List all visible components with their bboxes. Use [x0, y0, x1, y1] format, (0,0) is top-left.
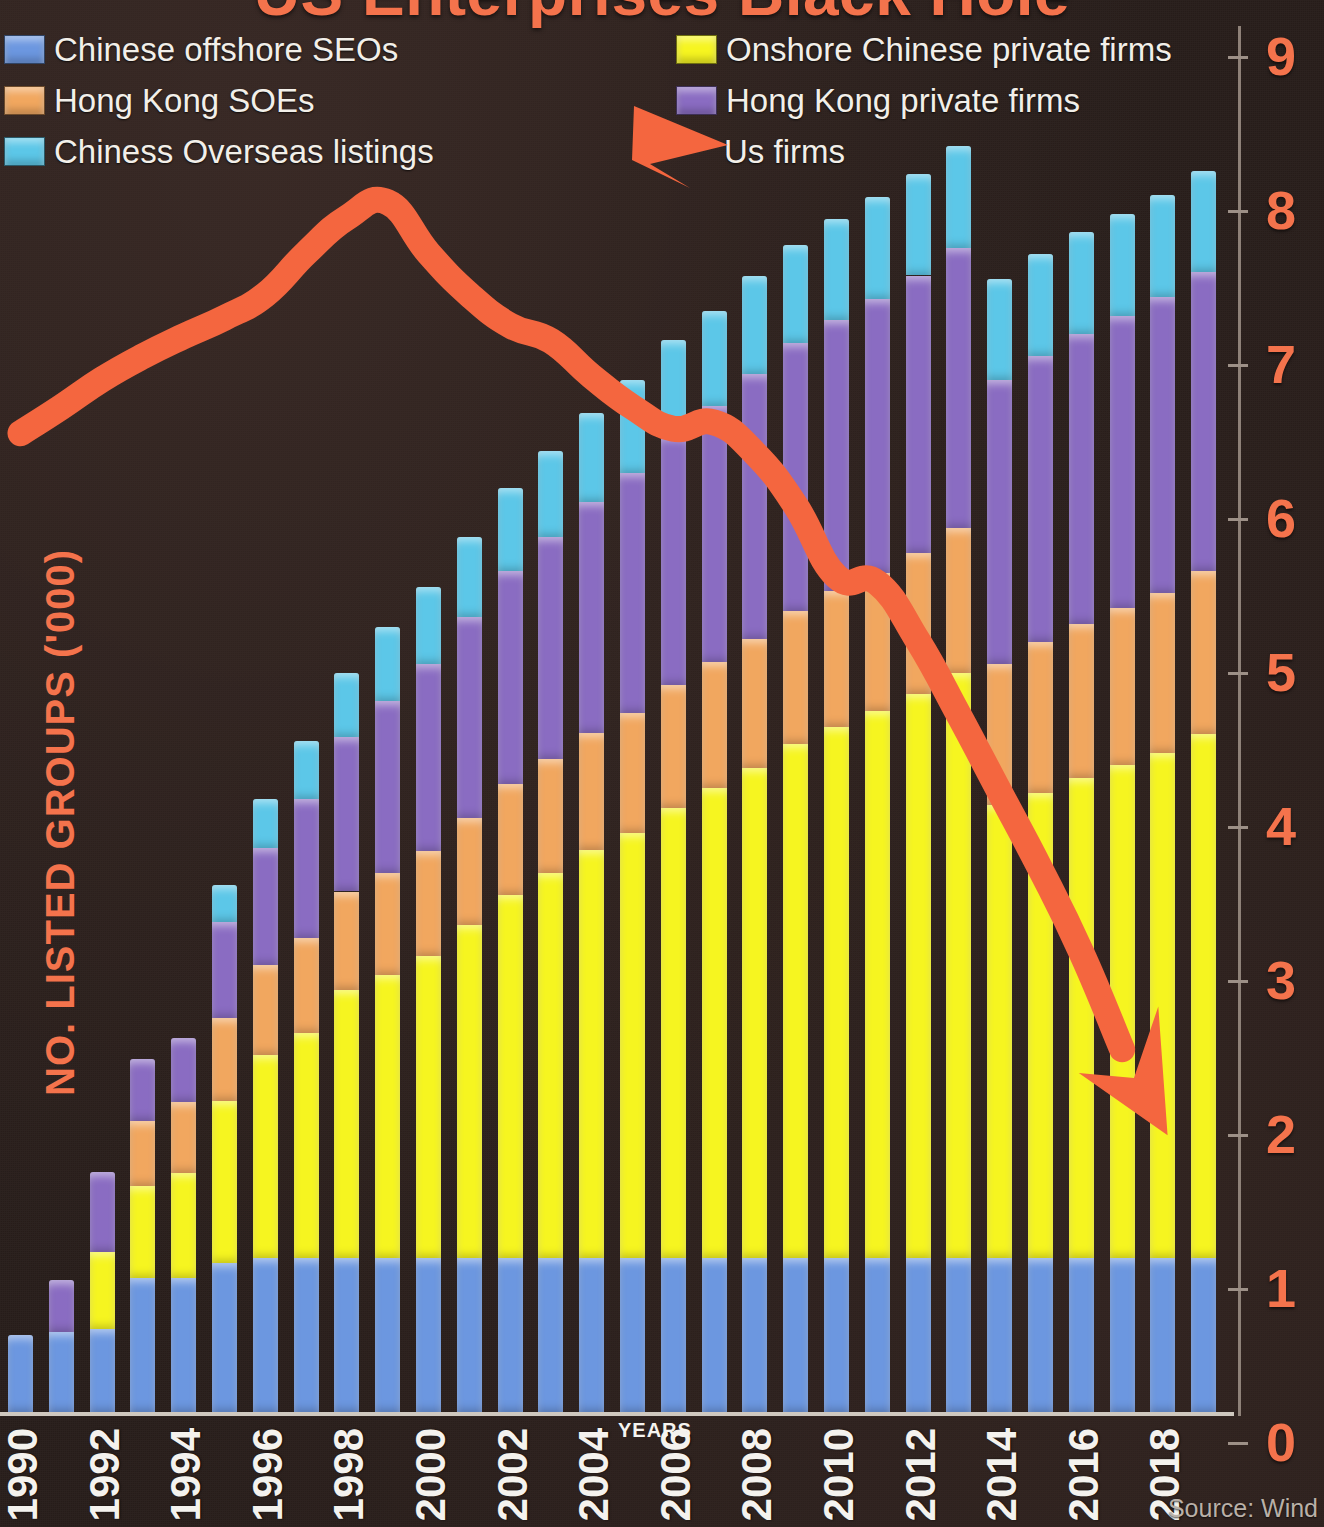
y-axis-tick — [1228, 364, 1248, 367]
bar-segment — [783, 343, 808, 611]
bar-segment — [1069, 624, 1094, 778]
bar-segment — [661, 436, 686, 685]
bar-segment — [824, 219, 849, 321]
bar-segment — [1069, 334, 1094, 624]
bar-segment — [620, 833, 645, 1258]
bar-segment — [987, 380, 1012, 663]
bar-segment — [783, 1258, 808, 1412]
bar-2006 — [661, 340, 686, 1412]
bar-1999 — [375, 627, 400, 1412]
legend-label: Hong Kong private firms — [726, 84, 1080, 117]
legend-label: Onshore Chinese private firms — [726, 33, 1172, 66]
bar-segment — [416, 851, 441, 956]
legend-swatch-cyan — [4, 137, 45, 166]
x-axis-label: 2006 — [655, 1428, 697, 1521]
bar-segment — [1150, 1258, 1175, 1412]
x-axis-baseline — [0, 1412, 1234, 1416]
y-axis-label: 4 — [1266, 799, 1296, 853]
bar-segment — [579, 502, 604, 733]
bar-segment — [1110, 608, 1135, 765]
bar-2008 — [742, 275, 767, 1412]
bar-segment — [171, 1102, 196, 1173]
bar-segment — [987, 664, 1012, 806]
bar-1993 — [130, 1059, 155, 1412]
y-axis-label: 8 — [1266, 183, 1296, 237]
chart-legend: Chinese offshore SEOs Onshore Chinese pr… — [4, 24, 1234, 177]
legend-label: Hong Kong SOEs — [54, 84, 315, 117]
bar-segment — [702, 311, 727, 406]
bar-segment — [620, 380, 645, 472]
bar-segment — [579, 413, 604, 502]
bar-segment — [90, 1329, 115, 1412]
bar-segment — [253, 1258, 278, 1412]
bar-segment — [498, 784, 523, 895]
y-axis-line — [1238, 26, 1241, 1416]
x-axis-label: 1992 — [84, 1428, 126, 1521]
bar-segment — [987, 1258, 1012, 1412]
bar-segment — [457, 617, 482, 817]
bar-segment — [253, 799, 278, 848]
bar-1990 — [8, 1335, 33, 1412]
bar-segment — [1191, 1258, 1216, 1412]
bar-segment — [334, 990, 359, 1258]
chart-canvas: US Enterprises Black Hole Chinese offsho… — [0, 0, 1324, 1527]
legend-swatch-purple — [676, 86, 717, 115]
legend-item-chinese-offshore-seos: Chinese offshore SEOs — [4, 33, 676, 66]
legend-item-us-firms: Us firms — [676, 135, 1236, 168]
bar-segment — [294, 1258, 319, 1412]
bar-segment — [742, 639, 767, 768]
bar-segment — [742, 1258, 767, 1412]
x-axis-label: 1994 — [165, 1428, 207, 1521]
bar-segment — [375, 873, 400, 975]
bar-segment — [538, 451, 563, 537]
bar-segment — [906, 276, 931, 553]
source-attribution: Source: Wind — [1168, 1494, 1318, 1523]
bar-segment — [457, 1258, 482, 1412]
bar-segment — [212, 922, 237, 1017]
bar-segment — [1191, 171, 1216, 273]
bar-2001 — [457, 537, 482, 1412]
bar-segment — [1150, 297, 1175, 593]
y-axis-label: 2 — [1266, 1107, 1296, 1161]
bar-segment — [253, 1055, 278, 1258]
bar-segment — [702, 788, 727, 1258]
y-axis-label: 7 — [1266, 337, 1296, 391]
bar-segment — [457, 818, 482, 926]
legend-item-hong-kong-private-firms: Hong Kong private firms — [676, 84, 1236, 117]
bar-segment — [620, 1258, 645, 1412]
bar-segment — [171, 1278, 196, 1412]
bar-segment — [620, 713, 645, 833]
bar-segment — [742, 276, 767, 375]
x-axis-label: 2008 — [736, 1428, 778, 1521]
bar-segment — [130, 1059, 155, 1121]
bar-segment — [987, 805, 1012, 1258]
bar-segment — [49, 1332, 74, 1412]
legend-label: Chiness Overseas listings — [54, 135, 434, 168]
bar-segment — [946, 1258, 971, 1412]
bar-segment — [253, 848, 278, 965]
bar-segment — [294, 799, 319, 938]
bar-segment — [375, 627, 400, 701]
bar-segment — [661, 1258, 686, 1412]
bar-segment — [987, 279, 1012, 381]
bar-segment — [334, 737, 359, 891]
bar-segment — [498, 895, 523, 1258]
y-axis-tick — [1228, 1442, 1248, 1445]
bar-segment — [212, 885, 237, 922]
bar-segment — [294, 938, 319, 1033]
bar-2002 — [498, 488, 523, 1412]
x-axis-label: 2002 — [492, 1428, 534, 1521]
legend-swatch-yellow — [676, 35, 717, 64]
bar-1998 — [334, 673, 359, 1412]
bar-segment — [702, 406, 727, 662]
y-axis-label: 5 — [1266, 645, 1296, 699]
bar-segment — [334, 1258, 359, 1412]
bar-segment — [294, 1033, 319, 1258]
bar-segment — [457, 537, 482, 617]
legend-item-chiness-overseas-listings: Chiness Overseas listings — [4, 135, 676, 168]
bar-segment — [1069, 1258, 1094, 1412]
bar-segment — [865, 711, 890, 1258]
bar-segment — [1191, 571, 1216, 734]
bar-1992 — [90, 1172, 115, 1412]
bar-segment — [620, 473, 645, 713]
